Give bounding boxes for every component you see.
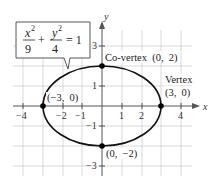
co-vertex-top-point	[99, 63, 105, 69]
vertex-left-point	[40, 103, 46, 109]
eq-equals-one: = 1	[66, 33, 82, 47]
y-axis-label: y	[103, 11, 109, 22]
eq-x-exponent: 2	[31, 24, 35, 33]
vertex-label-title: Vertex	[165, 74, 193, 85]
eq-y-exponent: 2	[58, 24, 62, 33]
x-tick-label: 4	[178, 110, 183, 121]
co-vertex-bottom-point	[99, 143, 105, 149]
co-vertex-label: Co-vertex (0, 2)	[105, 52, 178, 64]
y-tick-label: 1	[92, 80, 97, 91]
y-tick-label: −3	[86, 160, 97, 171]
x-tick-label: −2	[56, 110, 67, 121]
y-axis-arrow-icon	[99, 21, 105, 29]
equation-callout: x 2 9 + y 2 4 = 1	[16, 22, 90, 69]
left-vertex-label: (−3, 0)	[47, 92, 79, 104]
eq-x-numerator: x	[24, 26, 31, 40]
x-tick-label: −4	[16, 110, 27, 121]
eq-plus: +	[38, 33, 45, 47]
eq-y-denominator: 4	[52, 42, 58, 56]
bottom-co-vertex-label: (0, −2)	[106, 148, 138, 160]
eq-x-denominator: 9	[25, 42, 31, 56]
vertex-label-coords: (3, 0)	[165, 87, 191, 99]
vertex-right-point	[158, 103, 164, 109]
x-axis-label: x	[202, 101, 208, 112]
x-axis-arrow-icon	[192, 103, 200, 109]
eq-y-numerator: y	[51, 26, 58, 40]
ellipse-diagram: x y −4 −2 −1 1 2 4 3 1 −1 −3 Co-vertex (…	[0, 0, 212, 186]
y-tick-label: 3	[92, 40, 97, 51]
x-tick-label: 2	[139, 110, 144, 121]
x-tick-label: −1	[75, 110, 86, 121]
y-tick-label: −1	[86, 120, 97, 131]
x-tick-label: 1	[119, 110, 124, 121]
